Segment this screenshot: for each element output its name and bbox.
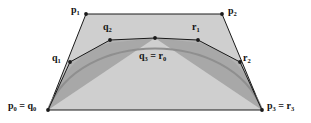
point-p0-q0	[46, 108, 50, 112]
label-r1: r1	[192, 22, 200, 32]
diagram-canvas	[0, 0, 311, 123]
label-p2: p2	[228, 6, 237, 16]
bezier-subdivision-figure: p0 = q0 p1 p2 p3 = r3 q1 q2 q3 = r0 r1 r…	[0, 0, 311, 123]
point-p2	[220, 12, 224, 16]
point-q1	[68, 60, 72, 64]
label-q1: q1	[52, 53, 61, 63]
point-r1	[196, 38, 200, 42]
point-p3-r3	[260, 108, 264, 112]
point-p1	[84, 12, 88, 16]
label-q3-r0: q3 = r0	[139, 51, 166, 61]
label-p1: p1	[71, 5, 80, 15]
label-p0-q0: p0 = q0	[8, 101, 36, 111]
point-q3-r0	[153, 36, 157, 40]
label-p3-r3: p3 = r3	[267, 101, 294, 111]
point-r2	[238, 60, 242, 64]
label-q2: q2	[103, 22, 112, 32]
label-r2: r2	[243, 53, 251, 63]
point-q2	[108, 38, 112, 42]
